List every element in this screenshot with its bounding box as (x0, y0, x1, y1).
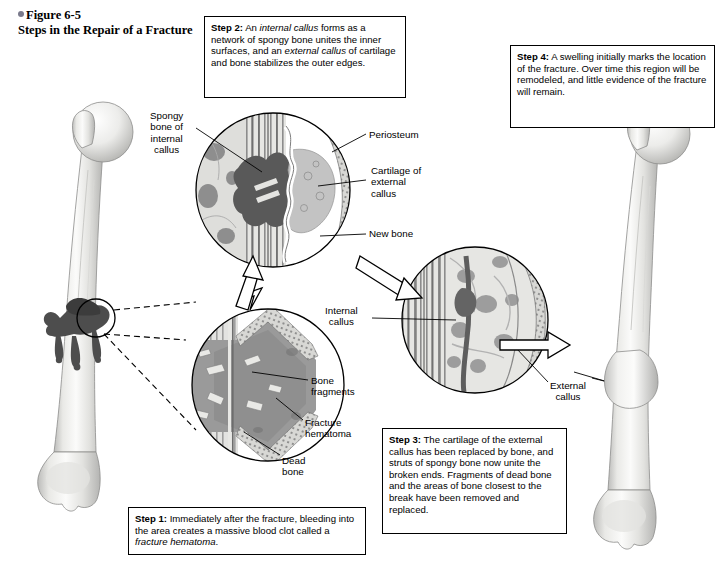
figure-canvas: Figure 6-5 Steps in the Repair of a Frac… (0, 0, 720, 574)
step-1-italic: fracture hematoma (135, 536, 216, 547)
label-spongy-bone-internal-callus: Spongy bone of internal callus (150, 110, 183, 156)
step-3-text: The cartilage of the external callus has… (389, 434, 553, 515)
label-periosteum: Periosteum (369, 129, 419, 140)
figure-title: Figure 6-5 Steps in the Repair of a Frac… (18, 8, 228, 37)
label-new-bone: New bone (369, 228, 413, 239)
circle-detail-step2 (196, 112, 353, 268)
label-external-callus: External callus (550, 380, 586, 403)
figure-bullet-icon (18, 11, 24, 17)
label-internal-callus: Internal callus (325, 305, 358, 328)
label-fracture-hematoma: Fracture hematoma (305, 417, 351, 440)
step-1-text-before: Immediately after the fracture, bleeding… (135, 513, 354, 536)
step-2-italic-internal-callus: internal callus (260, 22, 319, 33)
fracture-hematoma-clot (44, 298, 110, 370)
step-2-label: Step 2: (211, 22, 243, 33)
leader-periosteum (332, 134, 366, 152)
dashed-leader-lines (104, 302, 196, 430)
label-cartilage-external-callus: Cartilage of external callus (371, 165, 421, 199)
step-1-label: Step 1: (135, 513, 167, 524)
right-humerus-illustration (594, 104, 690, 549)
step-2-text-before: An (243, 22, 260, 33)
step-3-callout: Step 3: The cartilage of the external ca… (382, 428, 567, 534)
step-4-label: Step 4: (517, 51, 549, 62)
figure-number: Figure 6-5 (26, 8, 81, 22)
step-2-italic-external-callus: external callus (285, 45, 346, 56)
step-1-callout: Step 1: Immediately after the fracture, … (128, 507, 366, 555)
left-humerus-illustration (38, 102, 133, 511)
step-3-label: Step 3: (389, 434, 421, 445)
step-4-callout: Step 4: A swelling initially marks the l… (510, 45, 715, 128)
figure-title-text: Steps in the Repair of a Fracture (18, 23, 193, 37)
step-2-callout: Step 2: An internal callus forms as a ne… (204, 16, 406, 98)
step-1-text-after: . (216, 536, 219, 547)
label-bone-fragments: Bone fragments (311, 375, 355, 398)
label-dead-bone: Dead bone (282, 455, 305, 478)
